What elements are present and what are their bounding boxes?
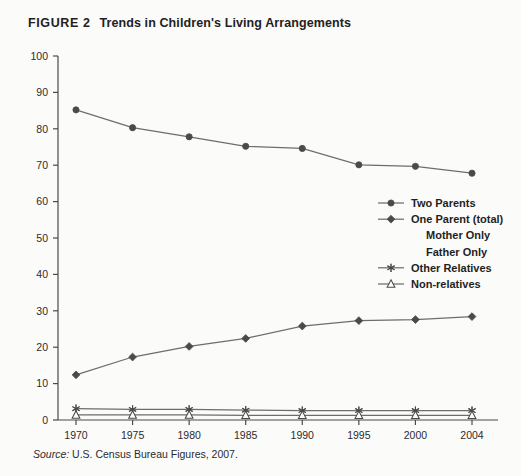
legend-label: Mother Only — [426, 229, 491, 241]
x-tick-label: 2004 — [460, 429, 484, 441]
data-point — [129, 353, 137, 361]
data-point — [242, 335, 250, 343]
data-point — [298, 322, 306, 330]
legend-item[interactable]: Other Relatives — [378, 262, 492, 274]
legend-label: Two Parents — [411, 197, 476, 209]
series-non-relatives — [72, 411, 476, 419]
y-tick-label: 0 — [42, 414, 48, 426]
legend-marker-circle — [388, 200, 394, 206]
legend-item[interactable]: Two Parents — [378, 197, 476, 209]
legend-label: Other Relatives — [411, 262, 492, 274]
y-tick-label: 30 — [36, 305, 48, 317]
y-axis-ticks: 0102030405060708090100 — [30, 50, 58, 426]
data-point — [129, 125, 135, 131]
y-tick-label: 100 — [30, 50, 48, 62]
source-text: U.S. Census Bureau Figures, 2007. — [72, 448, 238, 460]
legend-label: Father Only — [426, 246, 488, 258]
line-chart: 0102030405060708090100197019751980198519… — [0, 0, 521, 476]
y-tick-label: 80 — [36, 123, 48, 135]
y-tick-label: 40 — [36, 268, 48, 280]
data-point — [412, 163, 418, 169]
y-tick-label: 90 — [36, 86, 48, 98]
legend-item[interactable]: Father Only — [426, 246, 488, 258]
source-label: Source: — [33, 448, 69, 460]
x-tick-label: 1985 — [234, 429, 258, 441]
data-point — [469, 170, 475, 176]
data-point — [73, 107, 79, 113]
y-tick-label: 20 — [36, 341, 48, 353]
data-point — [185, 343, 193, 351]
x-tick-label: 1975 — [121, 429, 145, 441]
figure-container: FIGURE 2Trends in Children's Living Arra… — [0, 0, 521, 476]
data-point — [299, 145, 305, 151]
legend-item[interactable]: Non-relatives — [378, 278, 481, 290]
x-tick-label: 1995 — [347, 429, 371, 441]
data-point — [186, 134, 192, 140]
legend-item[interactable]: One Parent (total) — [378, 213, 504, 225]
legend-label: One Parent (total) — [411, 213, 504, 225]
x-tick-label: 1990 — [291, 429, 315, 441]
x-tick-label: 1980 — [177, 429, 201, 441]
y-tick-label: 70 — [36, 159, 48, 171]
legend-label: Non-relatives — [411, 278, 481, 290]
y-tick-label: 10 — [36, 377, 48, 389]
source-note: Source: U.S. Census Bureau Figures, 2007… — [33, 448, 238, 460]
y-tick-label: 50 — [36, 232, 48, 244]
x-axis-ticks: 19701975198019851990199520002004 — [64, 420, 484, 441]
series-two-parents — [73, 107, 475, 177]
series-line — [76, 317, 472, 375]
x-tick-label: 2000 — [404, 429, 428, 441]
data-point — [243, 143, 249, 149]
legend-marker-diamond — [387, 215, 395, 223]
data-point — [356, 162, 362, 168]
data-point — [355, 317, 363, 325]
data-point — [412, 316, 420, 324]
series-line — [76, 110, 472, 173]
data-point — [468, 313, 476, 321]
chart-legend: Two ParentsOne Parent (total)Mother Only… — [378, 197, 504, 290]
series-one-parent-total — [72, 313, 476, 379]
legend-item[interactable]: Mother Only — [426, 229, 491, 241]
data-point — [72, 371, 80, 379]
y-tick-label: 60 — [36, 195, 48, 207]
x-tick-label: 1970 — [64, 429, 88, 441]
